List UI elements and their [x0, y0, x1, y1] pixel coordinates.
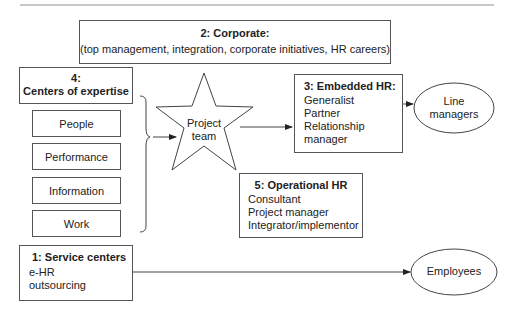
- project-team-line2: team: [174, 130, 234, 143]
- expertise-item-performance: Performance: [32, 143, 121, 170]
- line-managers-line1: Line: [414, 95, 494, 108]
- embedded-hr-item: manager: [304, 133, 402, 146]
- embedded-hr-box: 3: Embedded HR: Generalist Partner Relat…: [294, 74, 403, 153]
- operational-hr-title: 5: Operational HR: [240, 179, 362, 192]
- centers-of-expertise-box: 4: Centers of expertise: [19, 67, 133, 104]
- embedded-hr-item: Generalist: [304, 94, 402, 107]
- service-centers-title: 1: Service centers: [32, 251, 132, 264]
- operational-hr-item: Integrator/implementor: [248, 219, 362, 232]
- project-team-line1: Project: [174, 117, 234, 130]
- corporate-box: 2: Corporate: (top management, integrati…: [79, 20, 391, 64]
- expertise-item-label: Work: [64, 218, 89, 230]
- expertise-item-label: Information: [49, 185, 104, 197]
- expertise-item-label: Performance: [45, 151, 108, 163]
- centers-title-number: 4:: [20, 72, 132, 85]
- embedded-hr-item: Relationship: [304, 120, 402, 133]
- service-centers-item: outsourcing: [29, 279, 132, 292]
- service-centers-item: e-HR: [29, 266, 132, 279]
- corporate-title: 2: Corporate:: [80, 27, 390, 40]
- centers-title: Centers of expertise: [20, 85, 132, 98]
- operational-hr-item: Project manager: [248, 206, 362, 219]
- embedded-hr-item: Partner: [304, 107, 402, 120]
- line-managers-label: Line managers: [414, 95, 494, 121]
- operational-hr-box: 5: Operational HR Consultant Project man…: [239, 173, 363, 238]
- operational-hr-item: Consultant: [248, 193, 362, 206]
- expertise-item-work: Work: [32, 210, 121, 237]
- expertise-item-information: Information: [32, 177, 121, 204]
- embedded-hr-title: 3: Embedded HR:: [304, 80, 402, 93]
- employees-label: Employees: [411, 265, 497, 278]
- corporate-description: (top management, integration, corporate …: [80, 43, 390, 56]
- expertise-item-label: People: [59, 118, 93, 130]
- project-team-label: Project team: [174, 117, 234, 143]
- service-centers-box: 1: Service centers e-HR outsourcing: [19, 245, 133, 301]
- brace-icon: [140, 96, 150, 232]
- line-managers-line2: managers: [414, 108, 494, 121]
- expertise-item-people: People: [32, 110, 121, 137]
